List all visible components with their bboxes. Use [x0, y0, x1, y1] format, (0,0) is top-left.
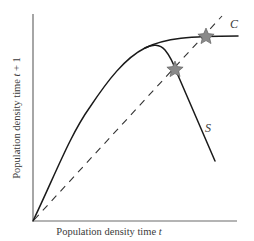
replacement-line: [34, 16, 222, 220]
x-axis-label: Population density time t: [56, 226, 162, 237]
curve-s: [145, 45, 215, 161]
y-axis-label: Population density time t + 1: [11, 57, 22, 179]
curve-s-label: S: [205, 121, 211, 135]
curve-c-label: C: [230, 17, 239, 31]
equilibrium-star-s: [167, 61, 183, 77]
recruitment-curve-chart: C S Population density time t Population…: [0, 0, 254, 241]
equilibrium-star-c: [198, 28, 214, 44]
